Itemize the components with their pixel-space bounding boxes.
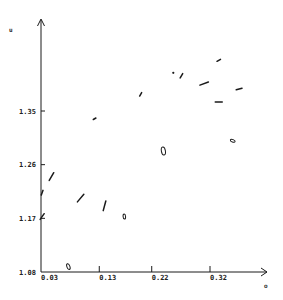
x-axis-title: o <box>264 282 268 289</box>
x-tick-label: 0.32 <box>210 274 227 282</box>
dash-glyph-marker <box>140 93 142 96</box>
y-tick-label: 1.17 <box>19 215 36 223</box>
y-tick-label: 1.08 <box>19 269 36 277</box>
ellipse-glyph-marker <box>123 214 126 219</box>
dash-glyph-marker <box>217 59 220 61</box>
dash-glyph-marker <box>93 118 96 120</box>
dash-glyph-marker <box>103 201 106 211</box>
data-points <box>40 59 242 270</box>
scatter-plot: 0.030.130.220.32 1.081.171.261.35 o u <box>0 0 283 300</box>
ellipse-glyph-marker <box>230 139 236 143</box>
y-tick-label: 1.26 <box>19 161 36 169</box>
dash-glyph-marker <box>41 190 43 195</box>
dash-glyph-marker <box>77 194 83 202</box>
dash-glyph-marker <box>200 82 208 85</box>
ellipse-glyph-marker <box>161 147 166 156</box>
y-tick-label: 1.35 <box>19 108 36 116</box>
x-tick-label: 0.13 <box>99 274 116 282</box>
y-axis-title: u <box>9 26 13 33</box>
dash-glyph-marker <box>180 74 183 78</box>
dash-glyph-marker <box>236 88 242 90</box>
dash-glyph-marker <box>49 173 54 181</box>
x-ticks: 0.030.130.220.32 <box>41 266 227 282</box>
x-tick-label: 0.22 <box>152 274 169 282</box>
dot-glyph-marker <box>172 72 174 74</box>
axes <box>38 19 268 276</box>
x-tick-label: 0.03 <box>41 274 58 282</box>
ellipse-glyph-marker <box>66 263 71 270</box>
